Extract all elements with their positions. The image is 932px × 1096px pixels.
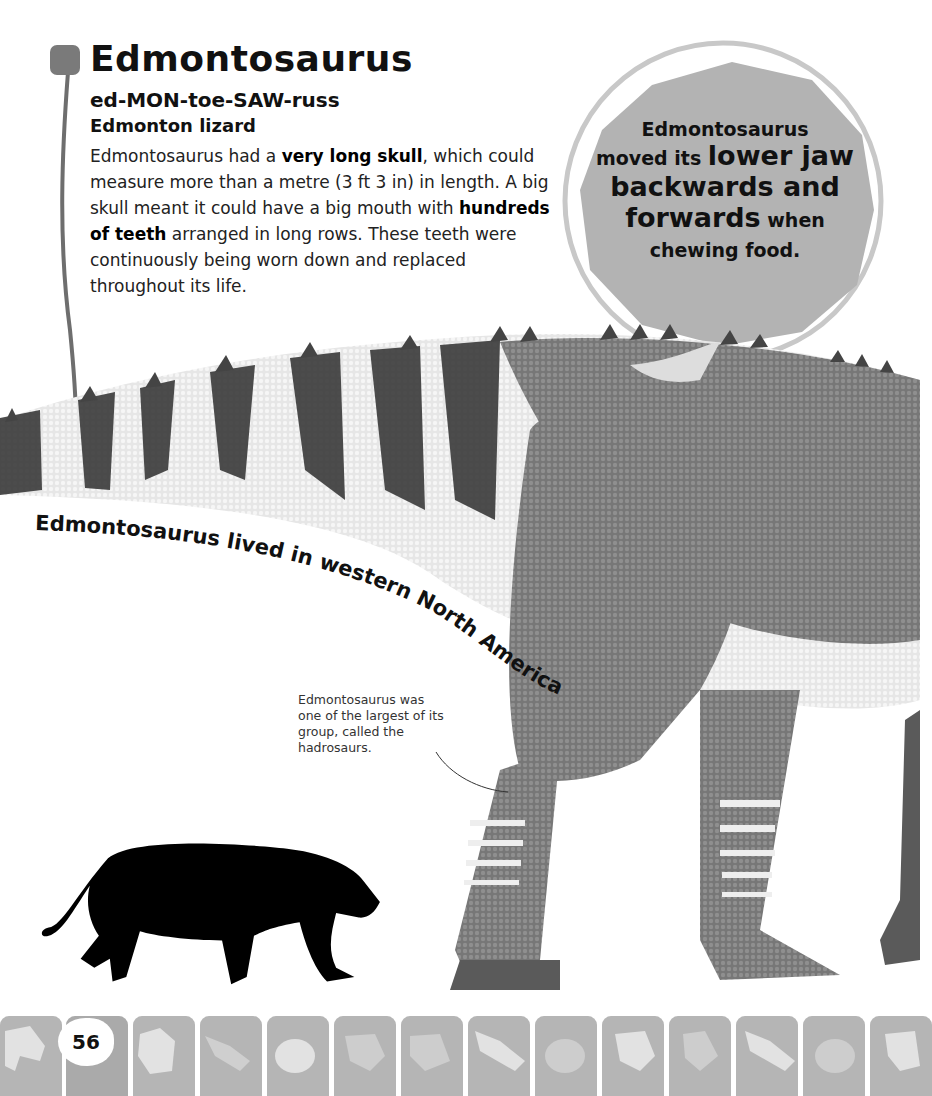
dino-footprint-icon	[5, 1026, 45, 1071]
dino-footprint-icon	[615, 1031, 655, 1071]
round-footprint-icon	[275, 1039, 315, 1073]
round-footprint-icon	[545, 1039, 585, 1073]
footprint-icons	[0, 1016, 920, 1096]
three-toe-footprint-icon	[138, 1028, 175, 1074]
dino-footprint-icon	[345, 1034, 385, 1071]
page-number: 56	[58, 1018, 114, 1066]
round-footprint-icon	[815, 1039, 855, 1073]
dino-footprint-icon	[885, 1031, 920, 1071]
claw-footprint-icon	[205, 1036, 250, 1071]
claw-footprint-icon	[475, 1031, 525, 1071]
claw-footprint-icon	[745, 1031, 795, 1071]
three-toe-footprint-icon	[683, 1031, 718, 1071]
lion-silhouette-icon	[35, 828, 400, 998]
three-toe-footprint-icon	[410, 1034, 450, 1071]
